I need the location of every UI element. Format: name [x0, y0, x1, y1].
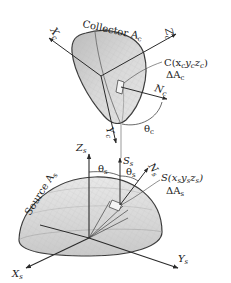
source-x-label: Xs [11, 268, 23, 281]
source-angle-label-2: θs [126, 166, 136, 179]
collector-x-label: Xc [46, 25, 63, 42]
source-area-label: ΔAs [166, 185, 184, 198]
source-z-label: Zs [75, 142, 87, 155]
collector-z-label: Zc [161, 26, 177, 41]
source-point-label: S(xsyszs) [161, 172, 203, 185]
view-factor-diagram: Collector Ac Xc Zc Nc Yc θc C(xcyczc) ΔA… [0, 0, 231, 283]
collector-area-label: ΔAc [166, 69, 184, 82]
source-angle-label-1: θs [98, 163, 108, 176]
collector-angle-label: θc [144, 123, 154, 136]
source-y-label: Ys [178, 253, 189, 266]
